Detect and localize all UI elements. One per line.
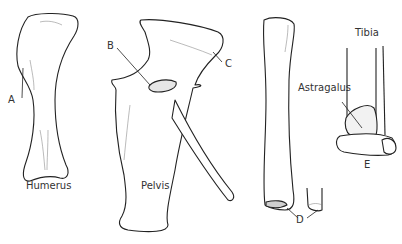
small-bone-fragment-drawing xyxy=(307,188,322,211)
label-astragalus: Astragalus xyxy=(298,82,351,93)
label-d: D xyxy=(296,214,304,225)
label-pelvis: Pelvis xyxy=(141,180,170,191)
label-humerus: Humerus xyxy=(26,180,71,191)
tibia-drawing xyxy=(337,46,396,155)
leader-d-2 xyxy=(307,210,318,218)
bone-illustration xyxy=(0,0,402,244)
label-a: A xyxy=(8,94,15,105)
label-e: E xyxy=(364,159,370,170)
label-b: B xyxy=(107,40,114,51)
label-tibia: Tibia xyxy=(355,27,379,38)
label-c: C xyxy=(225,58,232,69)
humerus-drawing xyxy=(17,13,78,181)
long-bone-drawing xyxy=(263,18,294,210)
pelvis-drawing xyxy=(112,20,234,232)
